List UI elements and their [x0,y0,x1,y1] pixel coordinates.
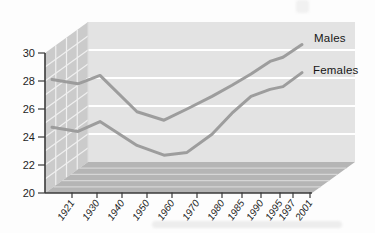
x-tick-label-1980: 1980 [205,197,227,222]
y-tick-label-26: 26 [23,103,35,115]
y-tick-label-22: 22 [23,159,35,171]
x-tick-label-1950: 1950 [130,197,152,222]
x-tick-label-1970: 1970 [180,197,202,222]
y-tick-label-28: 28 [23,75,35,87]
series-label-females: Females [313,64,359,76]
chart-figure: 2022242628301921193019401950196019701980… [0,0,375,233]
y-tick-label-24: 24 [23,131,35,143]
x-tick-label-1985: 1985 [225,197,247,222]
y-tick-label-20: 20 [23,187,35,199]
x-tick-label-1921: 1921 [55,198,77,223]
y-tick-label-30: 30 [23,47,35,59]
x-tick-label-1960: 1960 [155,197,177,222]
x-tick-label-1930: 1930 [80,197,102,222]
floor [45,162,355,193]
series-label-males: Males [314,32,346,44]
x-tick-label-1990: 1990 [244,197,266,222]
scan-artifact-top-right [296,0,309,13]
x-tick-label-2001: 2001 [292,198,314,223]
x-tick-label-1940: 1940 [105,197,127,222]
scan-artifact-bottom [152,221,342,228]
